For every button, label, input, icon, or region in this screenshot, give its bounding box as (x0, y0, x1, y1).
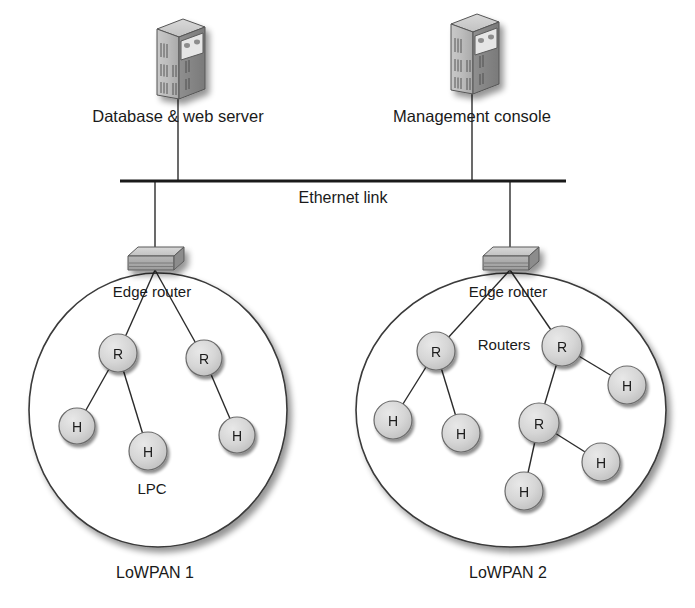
node-letter: H (519, 484, 529, 500)
node-letter: H (596, 455, 606, 471)
node-letter: H (232, 428, 242, 444)
node-letter: H (388, 413, 398, 429)
database-web-server-icon (157, 19, 205, 99)
routers-annotation-label: Routers (478, 336, 531, 353)
node-letter: H (143, 444, 153, 460)
pan-node-host[interactable]: H (219, 417, 255, 453)
management-console-label: Management console (393, 107, 551, 125)
pan-node-host[interactable]: H (129, 432, 167, 470)
pan-node-host[interactable]: H (59, 408, 95, 444)
ethernet-link-label: Ethernet link (299, 189, 389, 206)
pan-node-host[interactable]: H (374, 401, 412, 439)
lowpan-2-label: LoWPAN 2 (469, 564, 547, 581)
pan-node-router[interactable]: R (99, 334, 137, 372)
node-letter: R (199, 351, 209, 367)
pan-node-host[interactable]: H (582, 443, 620, 481)
edge-router-2-icon (483, 247, 539, 270)
node-letter: R (557, 339, 567, 355)
database-web-server-label: Database & web server (92, 107, 264, 125)
node-letter: R (431, 344, 441, 360)
node-letter: R (534, 416, 544, 432)
diagram-canvas: RRHHHRRHHHRHH Database & web server Mana… (0, 0, 695, 608)
node-letter: H (456, 426, 466, 442)
node-letter: H (72, 419, 82, 435)
pan-node-host[interactable]: H (442, 414, 480, 452)
network-diagram: RRHHHRRHHHRHH Database & web server Mana… (0, 0, 695, 608)
edge-router-1-icon (128, 247, 184, 270)
pan-node-router[interactable]: R (542, 326, 582, 366)
pan-node-router[interactable]: R (417, 332, 455, 370)
lowpan-1-label: LoWPAN 1 (116, 564, 194, 581)
node-letter: H (622, 378, 632, 394)
edge-router-1-label: Edge router (113, 283, 191, 300)
pan-node-host[interactable]: H (505, 472, 543, 510)
node-letter: R (113, 346, 123, 362)
pan-node-router[interactable]: R (186, 340, 222, 376)
management-console-icon (451, 14, 499, 94)
edge-router-2-label: Edge router (469, 283, 547, 300)
lpc-annotation-label: LPC (137, 480, 166, 497)
pan-node-router[interactable]: R (519, 403, 559, 443)
pan-node-host[interactable]: H (608, 366, 646, 404)
